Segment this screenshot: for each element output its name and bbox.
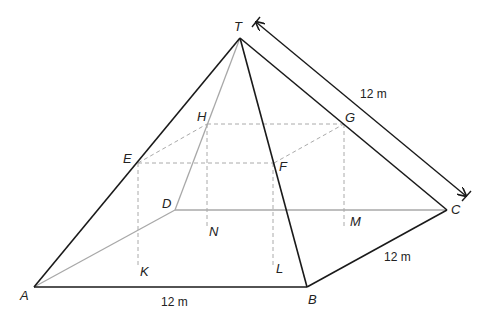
label-M: M xyxy=(350,214,361,229)
label-E: E xyxy=(123,151,132,166)
label-N: N xyxy=(209,224,219,239)
pyramid-diagram: T A B C D E F G H K L M N 12 m 12 m 12 m xyxy=(0,0,492,324)
edge-EH xyxy=(138,124,207,163)
dimension-label-AB: 12 m xyxy=(161,295,188,309)
label-F: F xyxy=(279,159,288,174)
label-C: C xyxy=(451,202,461,217)
edge-AD xyxy=(34,210,175,287)
label-H: H xyxy=(197,109,207,124)
label-D: D xyxy=(162,196,171,211)
label-A: A xyxy=(19,288,29,303)
dimension-label-TC: 12 m xyxy=(360,87,387,101)
label-L: L xyxy=(276,261,283,276)
label-K: K xyxy=(140,264,150,279)
edge-FG xyxy=(274,124,344,163)
dimension-label-BC: 12 m xyxy=(384,250,411,264)
label-G: G xyxy=(345,110,355,125)
label-B: B xyxy=(308,292,317,307)
edge-BC xyxy=(307,210,447,287)
label-T: T xyxy=(234,19,243,34)
